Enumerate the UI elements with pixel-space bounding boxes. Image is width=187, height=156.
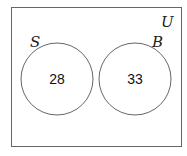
set-s-label: S [30, 33, 40, 51]
set-b-value: 33 [127, 71, 143, 87]
universe-rectangle [12, 8, 182, 147]
venn-diagram: U S 28 B 33 [0, 0, 187, 156]
set-s-value: 28 [49, 71, 65, 87]
set-b-label: B [151, 33, 163, 51]
universe-label: U [161, 13, 175, 31]
